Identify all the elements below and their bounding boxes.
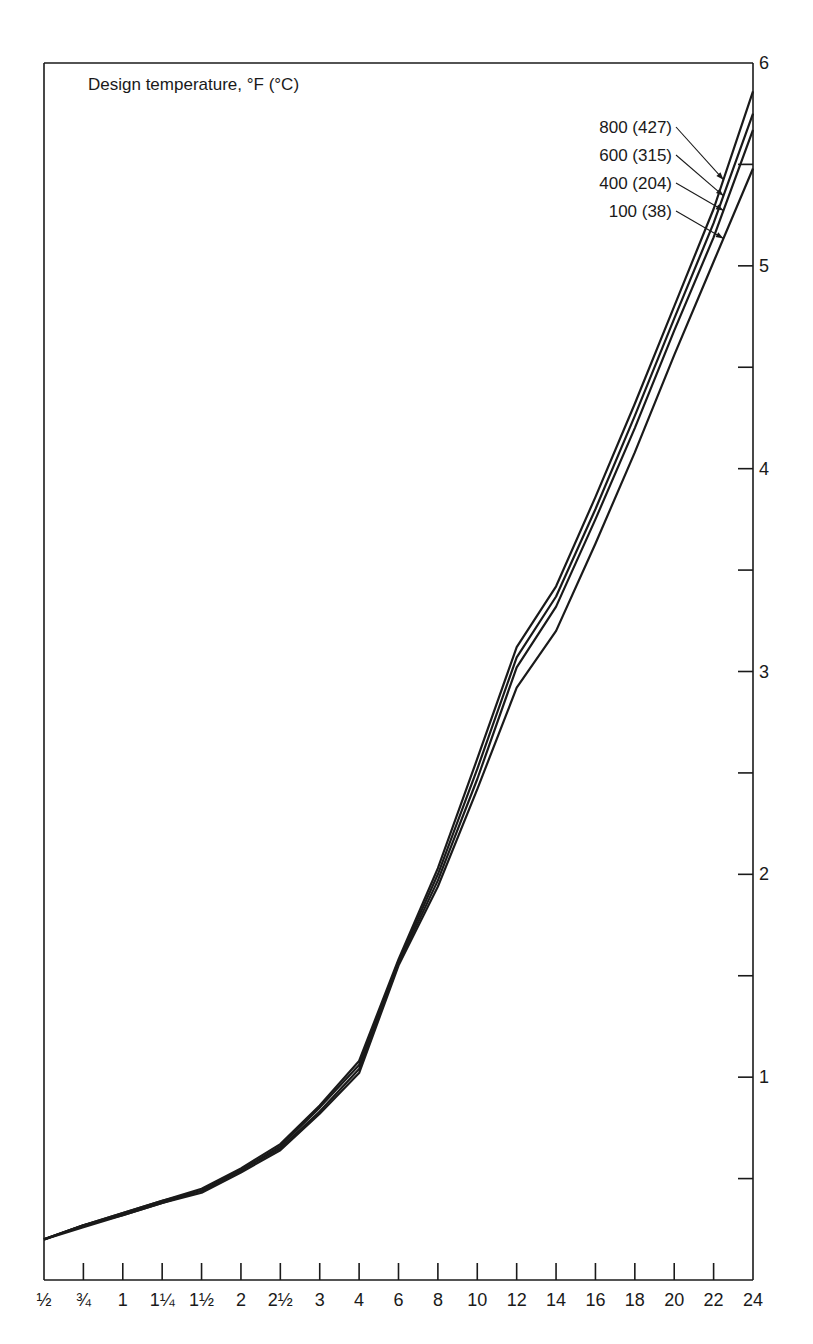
x-tick-label: 20 [664,1290,684,1310]
arrowhead-icon [716,232,724,238]
plot-frame [44,63,753,1280]
x-tick-label: 1 [118,1290,128,1310]
x-tick-label: 2 [236,1290,246,1310]
x-tick-label: 4 [354,1290,364,1310]
x-tick-label: 8 [433,1290,443,1310]
legend-label: 400 (204) [599,174,672,193]
x-tick-label: 10 [467,1290,487,1310]
legend-leader-line [676,127,723,180]
series-line-2 [44,130,753,1240]
x-tick-label: 22 [704,1290,724,1310]
x-tick-label: 6 [393,1290,403,1310]
x-tick-label: ½ [36,1290,51,1310]
x-tick-label: 1½ [189,1290,214,1310]
series-line-3 [44,169,753,1240]
series-line-1 [44,114,753,1240]
y-tick-label: 3 [759,662,769,682]
legend-leader-line [676,155,723,196]
legend-label: 100 (38) [609,202,672,221]
x-tick-label: 12 [507,1290,527,1310]
chart-title: Design temperature, °F (°C) [88,75,299,94]
series-line-0 [44,91,753,1239]
x-tick-label: 14 [546,1290,566,1310]
y-tick-label: 5 [759,256,769,276]
y-tick-label: 1 [759,1067,769,1087]
x-tick-label: 24 [743,1290,763,1310]
x-tick-label: 18 [625,1290,645,1310]
x-axis-ticks: ½¾11¼1½22½34681012141618202224 [36,1263,763,1310]
x-tick-label: 2½ [268,1290,293,1310]
series-lines [44,91,753,1239]
legend-leader-line [676,183,723,211]
x-tick-label: 16 [585,1290,605,1310]
x-tick-label: 1¼ [150,1290,176,1310]
legend-label: 600 (315) [599,146,672,165]
x-tick-label: 3 [315,1290,325,1310]
y-tick-label: 2 [759,864,769,884]
chart: ½¾11¼1½22½34681012141618202224 123456 De… [0,0,813,1344]
legend-label: 800 (427) [599,118,672,137]
x-tick-label: ¾ [76,1290,92,1310]
y-tick-label: 4 [759,459,769,479]
y-tick-label: 6 [759,53,769,73]
